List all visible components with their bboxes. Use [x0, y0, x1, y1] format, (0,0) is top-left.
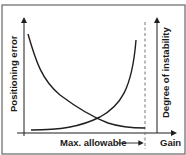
left-axis-label: Positioning error — [8, 35, 19, 112]
curve-positioning-error — [28, 34, 145, 128]
frame — [2, 5, 185, 154]
diagram-svg: Positioning error Degree of instability … — [0, 0, 186, 155]
right-axis-label: Degree of instability — [160, 26, 171, 118]
x-axis-label: Gain — [160, 137, 181, 148]
max-allowable-label: Max. allowable — [60, 137, 127, 148]
curve-degree-of-instability — [31, 40, 136, 130]
diagram: Positioning error Degree of instability … — [0, 0, 186, 155]
